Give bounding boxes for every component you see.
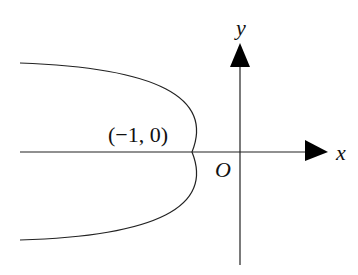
vertex-label: (−1, 0) — [108, 122, 168, 147]
y-axis-arrow-icon — [230, 43, 250, 67]
origin-label: O — [215, 157, 231, 182]
x-axis-arrow-icon — [305, 140, 328, 161]
x-axis-label: x — [335, 140, 346, 165]
diagram-svg: y x O (−1, 0) — [0, 0, 358, 275]
y-axis-label: y — [234, 15, 246, 40]
diagram-canvas: y x O (−1, 0) — [0, 0, 358, 275]
